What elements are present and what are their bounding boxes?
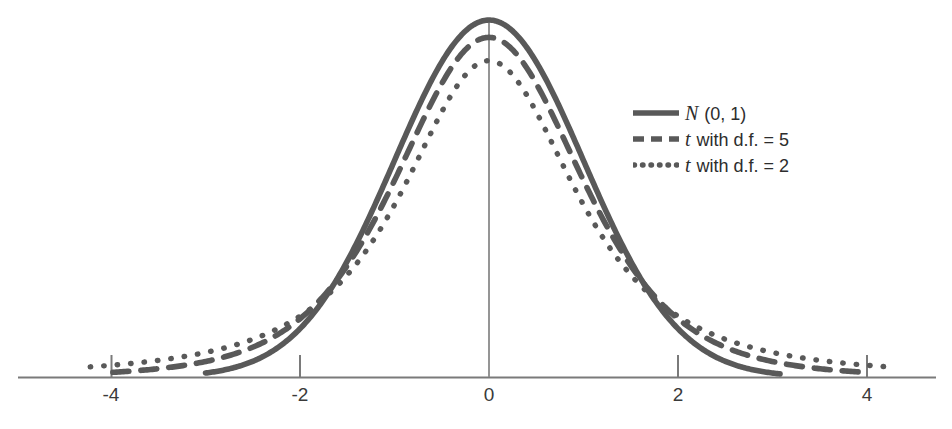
chart-legend: N (0, 1) t with d.f. = 5 t with d.f. = 2 xyxy=(633,100,893,178)
legend-label-normal: N (0, 1) xyxy=(685,102,746,125)
legend-text-t-df2: with d.f. = 2 xyxy=(692,156,790,176)
legend-label-t-df2: t with d.f. = 2 xyxy=(685,154,789,177)
legend-label-t-df5: t with d.f. = 5 xyxy=(685,128,789,151)
x-tick-label-4: 4 xyxy=(837,384,897,406)
legend-item-t-df2: t with d.f. = 2 xyxy=(633,152,893,178)
legend-text-t-df5: with d.f. = 5 xyxy=(692,130,790,150)
legend-swatch-dotted xyxy=(633,158,679,172)
curve-normal xyxy=(206,20,781,374)
x-tick-label-0: 0 xyxy=(459,384,519,406)
x-tick-label-2: 2 xyxy=(648,384,708,406)
legend-text-normal: (0, 1) xyxy=(699,104,746,124)
density-curves xyxy=(90,20,891,374)
legend-symbol-normal: N xyxy=(685,102,699,124)
legend-item-normal: N (0, 1) xyxy=(633,100,893,126)
x-tick-label-minus4: -4 xyxy=(81,384,141,406)
legend-swatch-dashed xyxy=(633,132,679,146)
chart-figure: -4 -2 0 2 4 N (0, 1) t with d.f. = 5 xyxy=(0,0,952,429)
legend-swatch-solid xyxy=(633,106,679,120)
legend-item-t-df5: t with d.f. = 5 xyxy=(633,126,893,152)
distribution-plot xyxy=(0,0,952,429)
x-tick-label-minus2: -2 xyxy=(270,384,330,406)
